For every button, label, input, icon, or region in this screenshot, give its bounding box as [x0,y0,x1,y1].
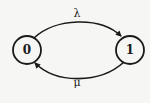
node-label-1: 1 [126,43,134,57]
state-diagram: 0 1 λ μ [0,0,150,103]
edge-label-mu: μ [73,76,80,89]
edge-label-lambda: λ [74,7,81,20]
edge-0-to-1 [34,22,121,38]
state-node-1: 1 [116,36,144,64]
node-label-0: 0 [23,43,31,57]
state-node-0: 0 [13,36,41,64]
